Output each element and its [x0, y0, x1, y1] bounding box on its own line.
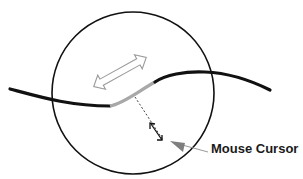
distance-dashed-line	[135, 97, 163, 140]
curve-highlight-segment	[110, 82, 155, 106]
double-arrow-icon	[90, 50, 150, 93]
distance-arrow-icon	[150, 123, 162, 140]
selection-circle	[52, 12, 214, 174]
mouse-cursor-icon	[170, 141, 185, 152]
mouse-cursor-label: Mouse Cursor	[211, 141, 298, 156]
curve-left	[10, 89, 110, 106]
